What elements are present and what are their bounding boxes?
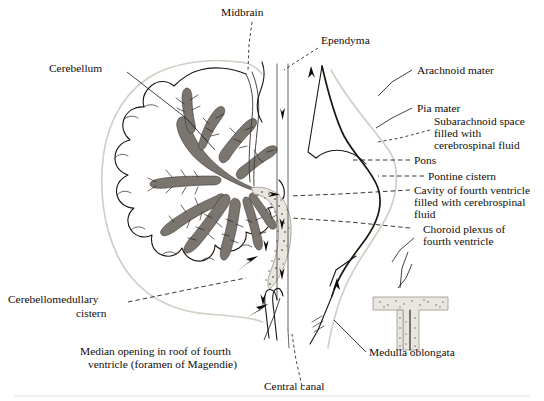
label-pons: Pons [414, 154, 437, 166]
pons-medulla-pia [308, 66, 380, 344]
anatomy-diagram: Sagittal section of cerebellum, pons and… [0, 0, 544, 401]
label-choroid-plexus-line1: Choroid plexus of [423, 223, 505, 235]
label-magendie-line1: Median opening in roof of fourth [80, 345, 231, 357]
label-medulla-oblongata: Medulla oblongata [369, 346, 455, 358]
choroid-plexus-inset [373, 297, 448, 350]
label-cavity-4v-line3: fluid [414, 208, 436, 220]
label-pontine-cistern: Pontine cistern [428, 170, 496, 182]
label-subarachnoid-line2: filled with [434, 127, 481, 139]
arrow-cistern-upleft [236, 256, 258, 272]
leader-cavity-4v [290, 190, 410, 196]
leader-ependyma [284, 48, 318, 70]
leader-subarachnoid [378, 130, 430, 142]
leader-pia [376, 108, 412, 128]
leader-cerebellomedullary [128, 278, 246, 302]
label-cavity-4v-line2: filled with cerebrospinal [414, 196, 525, 208]
leader-choroid-inset [392, 238, 414, 262]
arrow-pons-up [308, 66, 318, 98]
label-arachnoid-mater: Arachnoid mater [417, 64, 494, 76]
leader-arachnoid [378, 70, 412, 96]
arrow-aqueduct-down [280, 88, 285, 120]
label-midbrain: Midbrain [221, 6, 264, 18]
label-cerebellum: Cerebellum [49, 62, 102, 74]
label-subarachnoid-line1: Subarachnoid space [434, 115, 525, 127]
label-choroid-plexus-line2: fourth ventricle [423, 235, 494, 247]
figure-page: Sagittal section of cerebellum, pons and… [0, 0, 544, 401]
brainstem-contour [257, 62, 264, 122]
label-cavity-4v-line1: Cavity of fourth ventricle [414, 184, 530, 196]
leader-medulla [334, 320, 366, 352]
leader-central-canal [292, 334, 302, 386]
label-cerebellomedullary-line2: cistern [76, 307, 107, 319]
label-magendie-line2: ventricle (foramen of Magendie) [88, 358, 237, 371]
label-central-canal: Central canal [264, 380, 324, 392]
arbor-vitae [148, 88, 277, 260]
arrow-vermis [246, 304, 268, 318]
label-pia-mater: Pia mater [417, 102, 461, 114]
label-subarachnoid-line3: cerebrospinal fluid [434, 139, 520, 151]
leader-midbrain [248, 22, 252, 70]
leader-choroid-plexus [292, 218, 410, 228]
label-ependyma: Ependyma [321, 34, 370, 46]
leader-choroid-inset-2 [400, 252, 408, 288]
label-cerebellomedullary-line1: Cerebellomedullary [8, 293, 99, 305]
